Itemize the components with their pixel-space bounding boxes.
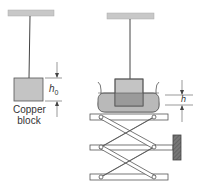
left-ceiling-support <box>8 10 54 16</box>
copper-block-caption: Copper block <box>13 104 45 126</box>
diagram-canvas <box>0 0 205 190</box>
left-suspension-wire <box>29 16 30 78</box>
crank-handle <box>173 135 181 160</box>
submerged-block-portion <box>115 93 143 106</box>
right-ceiling-support <box>107 13 154 19</box>
right-setup <box>90 13 193 180</box>
left-setup <box>8 10 62 117</box>
h-label: h <box>181 94 186 104</box>
copper-block <box>14 78 43 101</box>
h-dimension <box>165 80 193 122</box>
h0-label: h0 <box>49 83 58 96</box>
